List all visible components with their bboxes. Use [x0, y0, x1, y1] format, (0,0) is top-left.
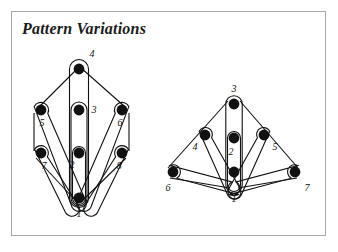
node-left-8	[117, 148, 128, 159]
node-right-1	[229, 167, 240, 178]
node-left-3	[74, 105, 85, 116]
label-right-4: 4	[193, 141, 198, 152]
label-left-6: 6	[118, 117, 123, 128]
node-left-7	[36, 148, 47, 159]
label-right-1: 1	[232, 193, 237, 204]
label-left-8: 8	[117, 160, 122, 171]
pattern-diagram-canvas: 4 3 2 1 5 6 7 8	[0, 0, 338, 252]
edge-3-6	[168, 101, 228, 168]
label-right-3: 3	[231, 83, 237, 94]
label-right-2: 2	[229, 146, 234, 157]
edge-6-4	[80, 67, 124, 106]
node-left-5	[36, 105, 47, 116]
node-right-2	[229, 133, 240, 144]
left-hub-loops	[34, 60, 129, 217]
figure-root: Pattern Variations	[0, 0, 338, 252]
left-outline-edges	[34, 67, 129, 199]
left-nodes	[36, 64, 128, 204]
label-right-7: 7	[305, 182, 311, 193]
left-pattern-diagram: 4 3 2 1 5 6 7 8	[34, 48, 129, 219]
label-left-1: 1	[77, 208, 82, 219]
node-right-6	[168, 167, 179, 178]
node-right-4	[200, 130, 211, 141]
edge-4-5	[40, 67, 79, 106]
node-left-6	[117, 105, 128, 116]
right-nodes	[168, 99, 301, 178]
node-right-7	[290, 167, 301, 178]
right-hub-loops	[170, 96, 298, 199]
node-left-2	[74, 148, 85, 159]
label-left-5: 5	[40, 117, 45, 128]
node-left-1	[74, 193, 85, 204]
label-left-2: 2	[70, 159, 75, 170]
node-right-3	[229, 99, 240, 110]
right-pattern-diagram: 3 2 1 4 5 6 7	[166, 83, 311, 204]
node-right-5	[259, 130, 270, 141]
label-left-4: 4	[90, 48, 95, 59]
node-left-4	[74, 64, 85, 75]
label-left-3: 3	[91, 104, 97, 115]
label-right-5: 5	[273, 141, 278, 152]
label-right-6: 6	[166, 182, 171, 193]
